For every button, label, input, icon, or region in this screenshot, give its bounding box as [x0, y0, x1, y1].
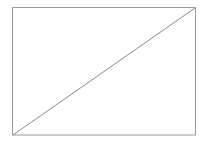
diagram-canvas: [0, 0, 208, 146]
